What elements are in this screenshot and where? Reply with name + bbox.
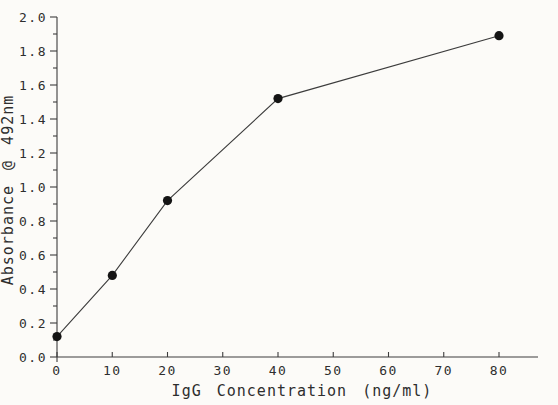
chart-canvas: 0.00.20.40.60.81.01.21.41.61.82.00102030…	[0, 0, 558, 405]
data-point	[273, 94, 282, 103]
data-point	[163, 196, 172, 205]
x-tick-label: 20	[158, 363, 177, 378]
data-point	[108, 271, 117, 280]
x-axis-title: IgG Concentration (ng/ml)	[172, 382, 433, 400]
y-axis-title: Absorbance @ 492nm	[0, 95, 17, 286]
y-tick-label: 0.4	[19, 282, 47, 297]
elisa-standard-curve-figure: 0.00.20.40.60.81.01.21.41.61.82.00102030…	[0, 0, 558, 405]
y-tick-label: 0.6	[19, 248, 47, 263]
y-tick-label: 1.2	[19, 146, 47, 161]
x-tick-label: 0	[52, 363, 61, 378]
data-point	[494, 31, 503, 40]
x-tick-label: 50	[324, 363, 343, 378]
y-tick-label: 1.4	[19, 112, 47, 127]
y-tick-label: 1.8	[19, 44, 47, 59]
data-point	[52, 332, 61, 341]
y-tick-label: 1.0	[19, 180, 47, 195]
y-tick-label: 0.2	[19, 316, 47, 331]
y-tick-label: 0.8	[19, 214, 47, 229]
series-line	[57, 36, 499, 337]
x-tick-label: 60	[379, 363, 398, 378]
y-tick-label: 1.6	[19, 78, 47, 93]
x-tick-label: 10	[103, 363, 122, 378]
y-tick-label: 0.0	[19, 350, 47, 365]
x-tick-label: 40	[269, 363, 288, 378]
y-tick-label: 2.0	[19, 10, 47, 25]
x-tick-label: 70	[434, 363, 453, 378]
x-tick-label: 30	[213, 363, 232, 378]
x-tick-label: 80	[490, 363, 509, 378]
